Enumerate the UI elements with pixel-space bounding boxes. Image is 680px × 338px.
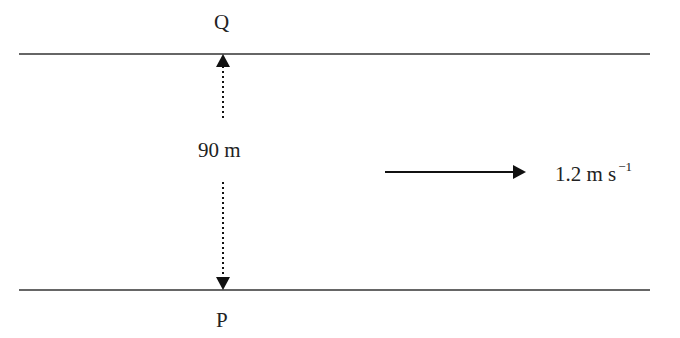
current-arrow	[385, 165, 526, 179]
top-bank-label: Q	[214, 12, 229, 33]
width-label: 90 m	[198, 140, 241, 161]
current-speed-value: 1.2 m s	[555, 162, 616, 186]
current-speed-exponent: −1	[618, 159, 632, 174]
arrowhead-right-icon	[513, 165, 526, 179]
arrowhead-down-icon	[216, 277, 230, 290]
bottom-bank-label: P	[216, 310, 228, 331]
current-speed-label: 1.2 m s−1	[555, 162, 632, 185]
width-arrow-up	[216, 54, 230, 120]
arrowhead-up-icon	[216, 54, 230, 67]
width-arrow-down	[216, 182, 230, 290]
